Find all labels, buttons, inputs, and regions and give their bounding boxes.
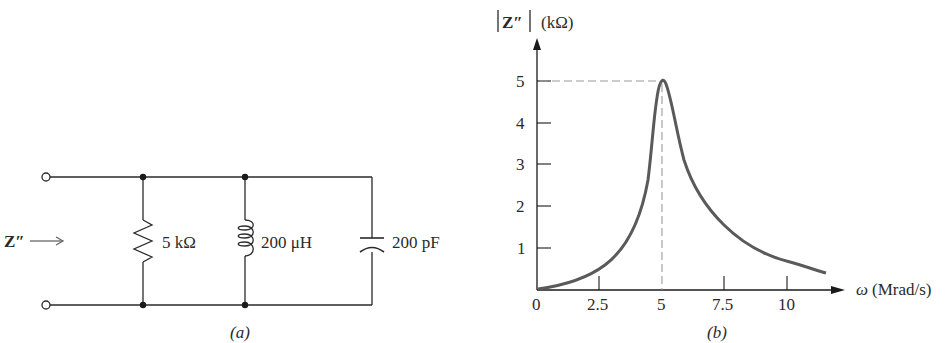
x-tick-label: 5 <box>657 295 666 314</box>
caption-a: (a) <box>230 323 250 342</box>
junction-dot <box>242 302 248 308</box>
circuit-diagram <box>30 173 384 309</box>
capacitor-symbol <box>360 238 384 252</box>
resistor-symbol <box>134 177 152 305</box>
capacitor-label: 200 pF <box>392 233 440 252</box>
inductor-label: 200 μH <box>261 233 312 252</box>
bottom-terminal <box>42 301 50 309</box>
junction-dot <box>140 174 146 180</box>
junction-dot <box>242 174 248 180</box>
y-axis-arrow-icon <box>533 38 541 50</box>
resistor-label: 5 kΩ <box>162 233 196 252</box>
x-axis-label-symbol: ω <box>856 280 868 299</box>
x-tick-label: 2.5 <box>587 295 608 314</box>
y-tick-label: 5 <box>516 72 525 91</box>
x-tick-label: 0 <box>532 295 541 314</box>
input-impedance-label: Z″ <box>4 232 25 251</box>
impedance-curve <box>538 80 826 289</box>
y-tick-label: 3 <box>516 155 525 174</box>
impedance-plot <box>533 38 845 294</box>
input-arrow-icon <box>30 237 63 245</box>
x-tick-label: 7.5 <box>712 295 733 314</box>
y-axis-label-unit: (kΩ) <box>541 13 573 32</box>
figure-canvas: Z″ 5 kΩ 200 μH 200 pF (a) <box>0 0 947 343</box>
inductor-symbol <box>238 177 253 305</box>
y-tick-label: 2 <box>516 197 525 216</box>
y-axis-label: Z″ (kΩ) <box>498 10 573 32</box>
y-tick-label: 4 <box>516 114 525 133</box>
x-tick-label: 10 <box>778 295 795 314</box>
junction-dot <box>140 302 146 308</box>
x-axis-label-unit: (Mrad/s) <box>872 280 931 299</box>
y-axis-label-main: Z″ <box>502 13 523 32</box>
x-axis-arrow-icon <box>831 286 845 294</box>
caption-b: (b) <box>707 323 727 342</box>
top-terminal <box>42 173 50 181</box>
y-tick-label: 1 <box>517 239 526 258</box>
